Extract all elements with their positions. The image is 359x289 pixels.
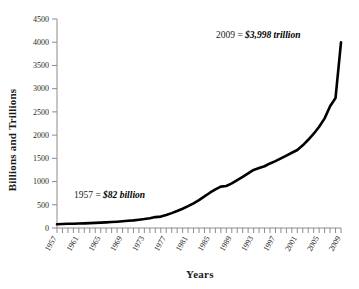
y-tick-label: 1500 (33, 154, 49, 163)
y-tick-label: 1000 (33, 177, 49, 186)
y-tick-label: 3000 (33, 84, 49, 93)
y-tick-label: 0 (45, 224, 49, 233)
line-chart-figure: Billions and Trillions Years 05001000150… (0, 0, 359, 289)
y-axis-title: Billions and Trillions (6, 88, 18, 191)
y-tick-label: 2500 (33, 108, 49, 117)
y-tick-label: 2000 (33, 131, 49, 140)
y-tick-label: 3500 (33, 61, 49, 70)
y-tick-label: 4500 (33, 15, 49, 24)
x-axis-title: Years (186, 268, 214, 280)
chart-container: Billions and Trillions Years 05001000150… (0, 0, 359, 289)
y-tick-label: 500 (37, 201, 49, 210)
end-value-annotation: 2009 = $3,998 trillion (216, 30, 301, 40)
y-tick-label: 4000 (33, 38, 49, 47)
start-value-annotation: 1957 = $82 billion (74, 190, 145, 200)
